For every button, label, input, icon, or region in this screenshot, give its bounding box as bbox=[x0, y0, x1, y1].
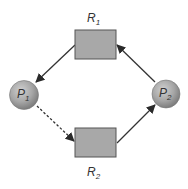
resource-r1-subscript: 1 bbox=[96, 18, 100, 27]
resource-r2-subscript: 2 bbox=[95, 172, 101, 181]
edge-r1-to-p1 bbox=[36, 45, 75, 82]
process-p2: P2 bbox=[152, 80, 180, 108]
resource-r2-label: R bbox=[87, 165, 96, 179]
resource-allocation-graph: R1 R2 P1 P2 bbox=[0, 0, 188, 189]
svg-text:R2: R2 bbox=[87, 165, 101, 181]
edge-p2-to-r1 bbox=[117, 45, 155, 82]
process-p1-subscript: 1 bbox=[25, 94, 29, 103]
resource-r1-label: R bbox=[87, 11, 96, 25]
process-p2-subscript: 2 bbox=[166, 93, 172, 102]
resource-r2: R2 bbox=[75, 128, 116, 181]
process-p2-label: P bbox=[159, 86, 167, 100]
process-p1-label: P bbox=[17, 87, 25, 101]
process-p1: P1 bbox=[10, 81, 39, 110]
resource-r1: R1 bbox=[75, 11, 116, 59]
edge-r2-to-p2 bbox=[117, 105, 155, 143]
svg-text:R1: R1 bbox=[87, 11, 100, 27]
edge-p1-to-r2 bbox=[37, 106, 74, 141]
